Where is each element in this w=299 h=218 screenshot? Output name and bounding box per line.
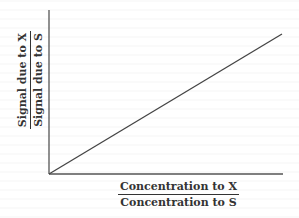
x-label-denominator: Concentration to S (120, 195, 236, 209)
y-label-numerator: Signal due to X (16, 31, 31, 129)
x-label-numerator: Concentration to X (118, 180, 239, 195)
y-label-denominator: Signal due to S (31, 33, 45, 127)
y-axis-label: Signal due to X Signal due to S (8, 10, 52, 150)
x-axis-label: Concentration to X Concentration to S (118, 180, 239, 209)
data-line (49, 34, 282, 174)
